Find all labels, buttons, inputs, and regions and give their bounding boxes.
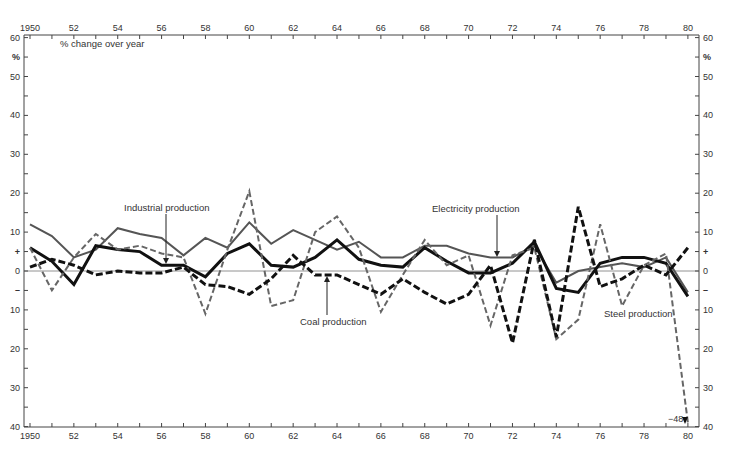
y-tick-label-left: 50 — [10, 72, 20, 82]
y-tick-label-right: + — [703, 247, 708, 257]
subtitle: % change over year — [60, 38, 145, 49]
x-tick-label-bottom: 66 — [376, 431, 386, 441]
y-tick-label-right: 0 — [703, 266, 708, 276]
y-tick-label-left: – — [15, 285, 20, 295]
label-coal-production: Coal production — [300, 316, 367, 327]
y-tick-label-left: 10 — [10, 227, 20, 237]
x-tick-label-bottom: 78 — [639, 431, 649, 441]
y-tick-label-right: 30 — [703, 149, 713, 159]
annotation-layer: % change over year Industrial production… — [60, 38, 688, 424]
x-tick-label-top: 74 — [551, 23, 561, 33]
x-tick-label-top: 68 — [420, 23, 430, 33]
y-tick-label-left: 20 — [10, 344, 20, 354]
x-tick-label-top: 52 — [69, 23, 79, 33]
x-tick-label-bottom: 74 — [551, 431, 561, 441]
y-tick-label-right: 20 — [703, 344, 713, 354]
y-tick-label-right: 40 — [703, 110, 713, 120]
x-tick-label-top: 70 — [464, 23, 474, 33]
y-tick-label-left: 10 — [10, 305, 20, 315]
axes: 1950195052525454565658586060626264646666… — [10, 23, 713, 441]
label-steel-offscale: −48 — [668, 414, 683, 424]
x-tick-label-bottom: 70 — [464, 431, 474, 441]
x-tick-label-top: 1950 — [20, 23, 40, 33]
y-tick-label-left: 30 — [10, 383, 20, 393]
y-tick-label-right: – — [703, 285, 708, 295]
y-tick-label-right: % — [703, 52, 711, 62]
x-tick-label-top: 64 — [332, 23, 342, 33]
y-tick-label-right: 20 — [703, 188, 713, 198]
y-tick-label-left: 40 — [10, 110, 20, 120]
label-electricity-production: Electricity production — [432, 203, 520, 214]
x-tick-label-bottom: 54 — [113, 431, 123, 441]
x-tick-label-bottom: 72 — [507, 431, 517, 441]
y-tick-label-right: 30 — [703, 383, 713, 393]
y-tick-label-left: 60 — [10, 33, 20, 43]
arrowhead-industrial — [163, 258, 169, 264]
x-tick-label-top: 76 — [595, 23, 605, 33]
x-tick-label-top: 62 — [288, 23, 298, 33]
y-tick-label-left: % — [12, 52, 20, 62]
x-tick-label-top: 72 — [507, 23, 517, 33]
x-tick-label-bottom: 58 — [200, 431, 210, 441]
x-tick-label-top: 66 — [376, 23, 386, 33]
series-layer — [30, 191, 688, 422]
x-tick-label-bottom: 80 — [683, 431, 693, 441]
x-tick-label-bottom: 56 — [157, 431, 167, 441]
x-tick-label-top: 54 — [113, 23, 123, 33]
x-tick-label-top: 56 — [157, 23, 167, 33]
x-tick-label-bottom: 68 — [420, 431, 430, 441]
y-tick-label-right: 40 — [703, 422, 713, 432]
x-tick-label-bottom: 52 — [69, 431, 79, 441]
y-tick-label-right: 60 — [703, 33, 713, 43]
x-tick-label-bottom: 64 — [332, 431, 342, 441]
arrowhead-coal — [324, 276, 330, 282]
y-tick-label-right: 10 — [703, 227, 713, 237]
label-industrial-production: Industrial production — [124, 202, 210, 213]
y-tick-label-left: 30 — [10, 149, 20, 159]
x-tick-label-top: 60 — [244, 23, 254, 33]
y-tick-label-left: 20 — [10, 188, 20, 198]
x-tick-label-bottom: 1950 — [20, 431, 40, 441]
series-steel-production — [30, 191, 688, 422]
x-tick-label-bottom: 76 — [595, 431, 605, 441]
x-tick-label-top: 58 — [200, 23, 210, 33]
y-tick-label-left: + — [15, 247, 20, 257]
line-chart: 1950195052525454565658586060626264646666… — [0, 0, 739, 457]
y-tick-label-right: 10 — [703, 305, 713, 315]
x-tick-label-top: 78 — [639, 23, 649, 33]
y-tick-label-left: 40 — [10, 422, 20, 432]
y-tick-label-right: 50 — [703, 72, 713, 82]
y-tick-label-left: 0 — [15, 266, 20, 276]
arrowhead-electricity — [494, 251, 500, 257]
x-tick-label-top: 80 — [683, 23, 693, 33]
x-tick-label-bottom: 62 — [288, 431, 298, 441]
label-steel-production: Steel production — [604, 308, 673, 319]
x-tick-label-bottom: 60 — [244, 431, 254, 441]
